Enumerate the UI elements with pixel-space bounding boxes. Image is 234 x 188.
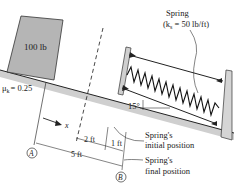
dimension-1ft (105, 127, 126, 170)
friction-label: μk= 0.25 (2, 83, 32, 94)
dimension-1ft-label: 1 ft (111, 139, 123, 148)
bracket-icon (216, 78, 222, 83)
spring-leader-line (190, 30, 198, 93)
dimension-2ft-label: 2 ft (84, 135, 96, 144)
initial-position-line2: initial position (145, 140, 195, 150)
point-a-label: A (28, 149, 34, 158)
dimension-5ft-label: 5 ft (71, 150, 83, 159)
x-axis-label: x (64, 121, 69, 130)
final-position-leader (124, 160, 143, 161)
x-axis-arrow (43, 118, 62, 126)
final-position-line1: Spring's (145, 155, 173, 165)
block-weight-label: 100 lb (24, 42, 47, 52)
initial-position-line1: Spring's (145, 130, 173, 140)
spring-constant: (ks = 50 lb/ft) (163, 19, 209, 30)
angle-label: 15° (128, 101, 140, 111)
point-b-label: B (118, 173, 123, 182)
spring-title: Spring (166, 8, 189, 18)
point-a-extension-line (34, 82, 46, 145)
spring-incline-diagram: 100 lb μk= 0.25 x Spring (ks = 50 lb/ft)… (0, 0, 234, 188)
initial-position-dashed-line (76, 28, 103, 143)
final-position-line2: final position (145, 166, 191, 176)
